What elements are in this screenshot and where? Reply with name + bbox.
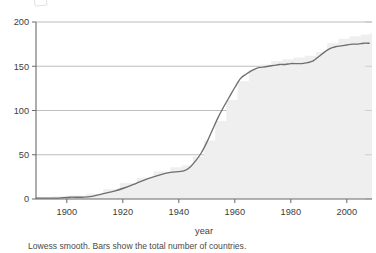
y-tick-label: 0 xyxy=(24,194,29,204)
x-tick-label: 1920 xyxy=(113,207,133,217)
chart-figure: 050100150200 190019201940196019802000 ye… xyxy=(0,0,376,253)
x-axis-ticks: 190019201940196019802000 xyxy=(57,199,357,217)
x-axis-title: year xyxy=(195,226,213,236)
x-tick-label: 2000 xyxy=(337,207,357,217)
y-tick-label: 200 xyxy=(14,17,29,27)
x-tick-label: 1960 xyxy=(225,207,245,217)
y-axis-ticks: 050100150200 xyxy=(14,17,36,204)
y-tick-label: 100 xyxy=(14,106,29,116)
figure-caption: Lowess smooth. Bars show the total numbe… xyxy=(28,241,246,251)
y-tick-label: 150 xyxy=(14,62,29,72)
y-tick-label: 50 xyxy=(19,150,29,160)
x-tick-label: 1900 xyxy=(57,207,77,217)
bar-series-background xyxy=(36,34,372,199)
x-tick-label: 1940 xyxy=(169,207,189,217)
lowess-line-chart: 050100150200 190019201940196019802000 ye… xyxy=(0,0,376,253)
x-tick-label: 1980 xyxy=(281,207,301,217)
